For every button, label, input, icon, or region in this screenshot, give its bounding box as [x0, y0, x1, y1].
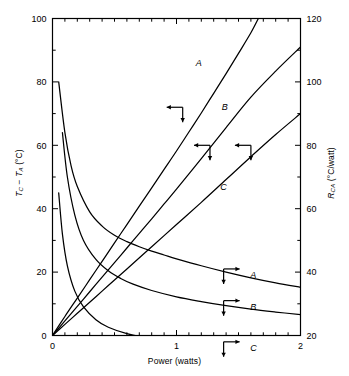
y-left-tick-label: 40	[36, 204, 46, 214]
y-left-tick-label: 20	[36, 267, 46, 277]
y-right-unit: (°C/watt)	[326, 147, 336, 184]
curve-rising-C	[53, 114, 301, 336]
chart-plot-area: 01202040608010020406080100120 ABCABC	[0, 0, 349, 376]
curve-label-falling-A: A	[249, 270, 256, 280]
x-tick-label: 2	[298, 341, 303, 351]
y-right-tick-label: 20	[307, 331, 317, 341]
y-right-symbol-r: R	[326, 193, 336, 199]
y-left-minus: −	[14, 177, 24, 187]
y-left-tick-label: 60	[36, 141, 46, 151]
y-left-tick-label: 80	[36, 77, 46, 87]
arrow-rising-A-left-head	[167, 105, 171, 109]
y-left-unit: (°C)	[14, 149, 24, 167]
y-right-tick-label: 60	[307, 204, 317, 214]
y-left-sub-c: C	[17, 187, 24, 192]
curve-rising-A	[53, 19, 259, 336]
axis-ticks	[53, 19, 301, 336]
curve-falling-B	[62, 133, 300, 315]
x-tick-label: 0	[50, 341, 55, 351]
x-axis-title: Power (watts)	[0, 356, 349, 366]
curve-label-rising-B: B	[222, 102, 228, 112]
curve-rising-B	[53, 47, 301, 335]
arrow-rising-B-left-head	[194, 143, 198, 147]
curve-label-rising-A: A	[195, 58, 202, 68]
y-axis-right-title: RCA (°C/watt)	[326, 118, 336, 228]
figure-canvas: 01202040608010020406080100120 ABCABC Pow…	[0, 0, 349, 376]
x-tick-label: 1	[174, 341, 179, 351]
arrow-falling-A-down-head	[221, 280, 225, 284]
arrow-rising-C-left-head	[235, 143, 239, 147]
y-left-symbol-t1: T	[14, 191, 24, 196]
y-right-tick-label: 120	[307, 14, 322, 24]
y-right-tick-label: 100	[307, 77, 322, 87]
axis-frame	[53, 19, 301, 336]
curve-label-rising-C: C	[220, 182, 227, 192]
curve-label-falling-B: B	[250, 302, 256, 312]
y-left-sub-a: A	[17, 167, 24, 171]
arrow-falling-A-right-head	[235, 267, 239, 271]
curve-label-falling-C: C	[250, 343, 257, 353]
arrow-falling-B-down-head	[221, 311, 225, 315]
data-curves	[53, 19, 301, 352]
y-right-tick-label: 40	[307, 267, 317, 277]
y-left-tick-label: 0	[41, 331, 46, 341]
arrow-rising-A-down-head	[181, 118, 185, 122]
axis-tick-labels: 01202040608010020406080100120	[31, 14, 321, 351]
y-right-sub-ca: CA	[329, 184, 336, 193]
y-left-symbol-t2: T	[14, 172, 24, 177]
y-axis-left-title: TC − TA (°C)	[14, 118, 24, 228]
arrow-falling-C-right-head	[235, 340, 239, 344]
y-left-tick-label: 100	[31, 14, 46, 24]
arrow-rising-B-down-head	[208, 156, 212, 160]
axis-pointer-arrows	[167, 105, 253, 357]
y-right-tick-label: 80	[307, 141, 317, 151]
arrow-falling-B-right-head	[235, 298, 239, 302]
